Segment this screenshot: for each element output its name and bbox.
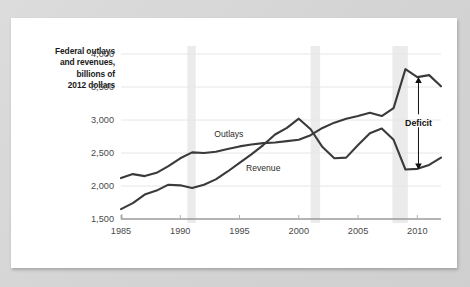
recession-band	[187, 46, 195, 223]
screenshot-root: Federal outlays and revenues, billions o…	[0, 0, 470, 287]
x-tick-label: 2010	[407, 226, 427, 236]
deficit-arrowhead-top	[415, 77, 422, 83]
series-labels: OutlaysRevenue	[214, 129, 280, 173]
y-tick-label: 3,500	[91, 82, 114, 92]
y-tick-label: 4,000	[91, 49, 114, 59]
x-tick-label: 1995	[229, 226, 249, 236]
y-tick-label: 1,500	[91, 214, 114, 224]
x-tick-label: 1990	[170, 226, 190, 236]
figure-card: Federal outlays and revenues, billions o…	[11, 18, 457, 268]
y-tick-label: 2,500	[91, 148, 114, 158]
y-tick-label: 3,000	[91, 115, 114, 125]
line-chart: 1,5002,0002,5003,0003,5004,000 198519901…	[11, 18, 457, 268]
y-axis-ticks: 1,5002,0002,5003,0003,5004,000	[91, 49, 114, 224]
series-label-outlays: Outlays	[214, 129, 243, 139]
deficit-label: Deficit	[405, 118, 432, 128]
y-tick-label: 2,000	[91, 181, 114, 191]
x-tick-label: 2005	[348, 226, 368, 236]
x-axis-ticks: 198519901995200020052010	[111, 215, 428, 236]
deficit-annotation: Deficit	[405, 77, 432, 169]
x-tick-label: 1985	[111, 226, 131, 236]
x-tick-label: 2000	[289, 226, 309, 236]
series-label-revenue: Revenue	[246, 163, 281, 173]
